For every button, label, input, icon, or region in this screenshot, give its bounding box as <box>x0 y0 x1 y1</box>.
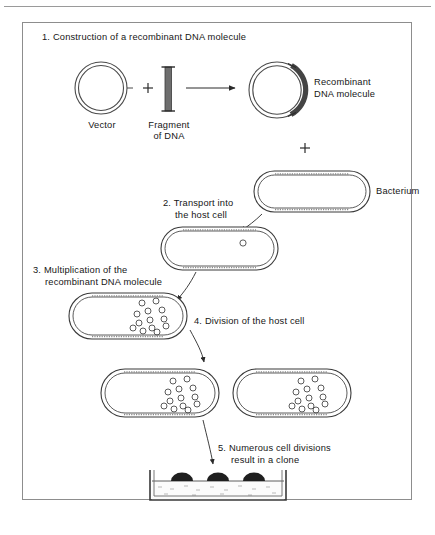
vector-label: Vector <box>76 120 128 132</box>
bacterium-cell <box>254 171 370 212</box>
step2-caption-line1: 2. Transport into <box>163 198 233 210</box>
step4-caption: 4. Division of the host cell <box>194 316 305 328</box>
multiplication-arrow-icon <box>177 272 196 300</box>
multiplied-host-cell <box>69 293 187 339</box>
step3-caption-line1: 3. Multiplication of the <box>33 265 127 277</box>
fragment-label-line2: of DNA <box>142 131 196 143</box>
step5-caption-line2: result in a clone <box>231 455 299 467</box>
fragment-label-line1: Fragment <box>142 120 196 132</box>
clone-arrow-icon <box>203 420 213 464</box>
bacterial-colonies <box>171 473 265 482</box>
step5-caption-line1: 5. Numerous cell divisions <box>218 443 331 455</box>
daughter-cell-left <box>101 369 219 417</box>
recombinant-dna-plasmid <box>249 62 306 118</box>
daughter-cell-right <box>233 369 351 417</box>
plus-sign-icon-1 <box>143 83 153 93</box>
dna-fragment-bar <box>162 67 176 111</box>
bacterium-label: Bacterium <box>376 186 420 198</box>
division-arrow-icon <box>190 330 204 362</box>
figure-root: 1. Construction of a recombinant DNA mol… <box>0 0 435 535</box>
step1-caption: 1. Construction of a recombinant DNA mol… <box>42 32 246 44</box>
step3-caption-line2: recombinant DNA molecule <box>45 277 162 289</box>
recombinant-label-line1: Recombinant <box>314 77 371 89</box>
host-cell <box>161 227 278 270</box>
petri-dish <box>150 470 286 500</box>
vector-plasmid <box>75 62 133 114</box>
step2-caption-line2: the host cell <box>175 210 227 222</box>
recombinant-label-line2: DNA molecule <box>314 89 375 101</box>
plus-sign-icon-2 <box>300 143 310 153</box>
